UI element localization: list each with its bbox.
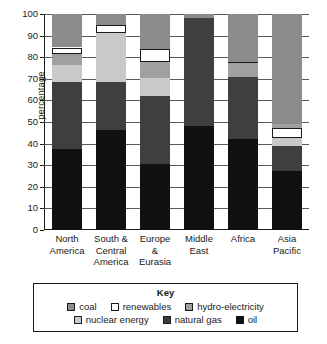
- x-axis-category-label: South &CentralAmerica: [89, 233, 133, 268]
- legend-title: Key: [34, 287, 297, 298]
- x-axis-category-line: Africa: [221, 233, 265, 245]
- legend-swatch-oil-icon: [236, 316, 244, 324]
- legend-item-coal[interactable]: coal: [67, 301, 96, 312]
- legend-label: natural gas: [175, 314, 222, 325]
- legend-row: nuclear energynatural gasoil: [34, 314, 297, 325]
- legend-item-renewables[interactable]: renewables: [111, 301, 172, 312]
- bar-segment-renewables[interactable]: [228, 62, 258, 63]
- x-axis-category-label: NorthAmerica: [45, 233, 89, 268]
- bar-segment-hydro-electricity[interactable]: [272, 124, 302, 128]
- legend-swatch-natural-gas-icon: [163, 316, 171, 324]
- legend-label: oil: [248, 314, 258, 325]
- bar-segment-natural-gas[interactable]: [96, 82, 126, 130]
- bar-segment-nuclear-energy[interactable]: [96, 33, 126, 82]
- bar-segment-natural-gas[interactable]: [52, 82, 82, 149]
- stacked-bar[interactable]: [272, 14, 302, 230]
- y-axis-tick-label: 0: [33, 225, 38, 235]
- x-axis-category-line: East: [177, 245, 221, 257]
- bar-segment-coal[interactable]: [184, 14, 214, 18]
- bar-segment-hydro-electricity[interactable]: [52, 54, 82, 65]
- bar-segment-oil[interactable]: [140, 164, 170, 230]
- x-axis-category-label: AsiaPacific: [265, 233, 309, 268]
- bar-segment-nuclear-energy[interactable]: [140, 78, 170, 96]
- y-axis-tick: [40, 208, 44, 209]
- y-axis-tick: [40, 79, 44, 80]
- bar-segment-coal[interactable]: [228, 14, 258, 62]
- y-axis-tick: [40, 100, 44, 101]
- legend-item-oil[interactable]: oil: [236, 314, 258, 325]
- y-axis-tick: [40, 187, 44, 188]
- y-axis-tick-label: 10: [27, 204, 38, 214]
- y-axis-tick-label: 50: [27, 117, 38, 127]
- stacked-bar[interactable]: [140, 14, 170, 230]
- bar-segment-coal[interactable]: [140, 14, 170, 49]
- bar-segment-hydro-electricity[interactable]: [140, 62, 170, 78]
- bar-segment-oil[interactable]: [184, 126, 214, 230]
- y-axis-tick: [40, 122, 44, 123]
- bar-slot: [265, 14, 309, 230]
- legend-label: coal: [79, 301, 96, 312]
- x-axis-category-label: Africa: [221, 233, 265, 268]
- legend-swatch-coal-icon: [67, 303, 75, 311]
- stacked-bar[interactable]: [52, 14, 82, 230]
- bar-segment-coal[interactable]: [272, 14, 302, 124]
- bar-slot: [45, 14, 89, 230]
- y-axis-tick-label: 20: [27, 182, 38, 192]
- bar-segment-natural-gas[interactable]: [272, 146, 302, 171]
- x-axis-category-line: &: [133, 245, 177, 257]
- stacked-bar[interactable]: [96, 14, 126, 230]
- y-axis-tick-label: 30: [27, 160, 38, 170]
- bar-segment-coal[interactable]: [52, 14, 82, 47]
- y-axis-tick-label: 60: [27, 96, 38, 106]
- x-axis-category-line: Asia: [265, 233, 309, 245]
- stacked-bar[interactable]: [184, 14, 214, 230]
- bar-segment-natural-gas[interactable]: [140, 96, 170, 164]
- legend-label: hydro-electricity: [197, 301, 264, 312]
- legend-item-nuclear-energy[interactable]: nuclear energy: [74, 314, 149, 325]
- bar-segment-hydro-electricity[interactable]: [228, 63, 258, 77]
- legend-item-hydro-electricity[interactable]: hydro-electricity: [185, 301, 264, 312]
- bar-slot: [221, 14, 265, 230]
- legend: Key coalrenewableshydro-electricitynucle…: [33, 283, 298, 332]
- x-axis-category-label: MiddleEast: [177, 233, 221, 268]
- bar-segment-coal[interactable]: [96, 14, 126, 25]
- bar-segment-renewables[interactable]: [96, 25, 126, 34]
- bar-segment-nuclear-energy[interactable]: [272, 138, 302, 146]
- x-axis-category-line: Central: [89, 245, 133, 257]
- legend-label: nuclear energy: [86, 314, 149, 325]
- bar-segment-oil[interactable]: [272, 171, 302, 230]
- y-axis-tick: [40, 165, 44, 166]
- bar-segment-oil[interactable]: [228, 139, 258, 230]
- bar-slot: [89, 14, 133, 230]
- x-axis-category-labels: NorthAmericaSouth &CentralAmericaEurope&…: [45, 233, 309, 268]
- legend-rows: coalrenewableshydro-electricitynuclear e…: [34, 301, 297, 325]
- x-axis-category-line: North: [45, 233, 89, 245]
- chart-root: percentage 0102030405060708090100 NorthA…: [0, 0, 327, 344]
- bar-segment-renewables[interactable]: [52, 48, 82, 54]
- bar-group: [45, 14, 309, 230]
- bar-segment-natural-gas[interactable]: [184, 18, 214, 126]
- legend-label: renewables: [123, 301, 172, 312]
- x-axis-category-line: Europe: [133, 233, 177, 245]
- legend-swatch-hydro-electricity-icon: [185, 303, 193, 311]
- x-axis-category-line: America: [89, 256, 133, 268]
- legend-swatch-nuclear-energy-icon: [74, 316, 82, 324]
- y-axis-tick: [40, 36, 44, 37]
- y-axis-tick-label: 40: [27, 139, 38, 149]
- legend-row: coalrenewableshydro-electricity: [34, 301, 297, 312]
- x-axis-category-line: Eurasia: [133, 256, 177, 268]
- x-axis-category-line: Pacific: [265, 245, 309, 257]
- stacked-bar[interactable]: [228, 14, 258, 230]
- legend-item-natural-gas[interactable]: natural gas: [163, 314, 222, 325]
- bar-segment-oil[interactable]: [52, 149, 82, 230]
- bar-segment-nuclear-energy[interactable]: [52, 65, 82, 82]
- bar-segment-oil[interactable]: [96, 130, 126, 230]
- x-axis-category-label: Europe&Eurasia: [133, 233, 177, 268]
- bar-segment-natural-gas[interactable]: [228, 77, 258, 140]
- legend-swatch-renewables-icon: [111, 303, 119, 311]
- bar-segment-renewables[interactable]: [272, 128, 302, 138]
- y-axis-tick: [40, 230, 44, 231]
- x-axis-category-line: Middle: [177, 233, 221, 245]
- bar-segment-renewables[interactable]: [140, 49, 170, 62]
- x-axis-category-line: South &: [89, 233, 133, 245]
